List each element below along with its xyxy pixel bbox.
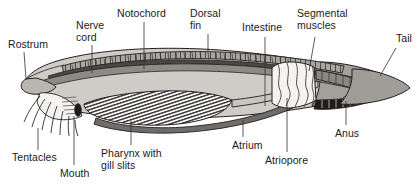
tail-leader: [380, 48, 396, 76]
label-atrium: Atrium: [232, 139, 263, 151]
label-tentacles: Tentacles: [12, 151, 57, 163]
label-tail: Tail: [396, 32, 412, 44]
label-dorsal-fin: Dorsalfin: [190, 7, 221, 31]
mouth: [75, 104, 82, 117]
label-atriopore: Atriopore: [265, 154, 308, 166]
label-pharynx-gill-slits: Pharynx withgill slits: [101, 147, 162, 171]
label-anus: Anus: [335, 127, 359, 139]
label-rostrum: Rostrum: [8, 38, 48, 50]
label-notochord: Notochord: [117, 7, 166, 19]
label-intestine: Intestine: [242, 21, 282, 33]
label-nerve-cord: Nervecord: [76, 19, 104, 43]
rostrum-leader: [24, 52, 26, 79]
lancelet-anatomy-figure: Rostrum Nervecord Notochord Dorsalfin In…: [0, 0, 418, 185]
label-segmental-muscles: Segmentalmuscles: [297, 7, 348, 31]
label-mouth: Mouth: [60, 167, 89, 179]
